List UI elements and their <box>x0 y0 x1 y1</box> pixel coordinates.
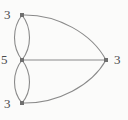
edge-top-left-b <box>22 15 30 60</box>
edge-left-bottom-a <box>15 60 23 103</box>
vertex-label-top: 3 <box>4 8 11 21</box>
graph-canvas <box>0 0 128 120</box>
vertex-label-left: 5 <box>1 53 8 66</box>
vertex-label-bottom: 3 <box>4 97 11 110</box>
vertex-top <box>20 13 24 17</box>
vertex-group <box>20 13 108 105</box>
vertex-right <box>104 58 108 62</box>
edge-top-left-a <box>15 15 23 60</box>
edge-bottom-right-outer <box>22 60 106 103</box>
edge-top-right-outer <box>22 15 106 60</box>
edge-group <box>15 15 107 103</box>
vertex-left <box>20 58 24 62</box>
edge-left-bottom-b <box>22 60 30 103</box>
vertex-label-right: 3 <box>114 53 121 66</box>
vertex-bottom <box>20 101 24 105</box>
graph-figure: 3 5 3 3 <box>0 0 128 120</box>
